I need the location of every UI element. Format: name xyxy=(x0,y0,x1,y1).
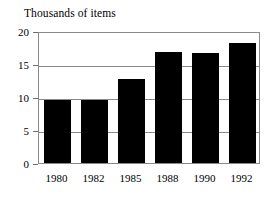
bar xyxy=(192,53,219,163)
bar xyxy=(81,100,108,163)
y-axis-tick-label: 10 xyxy=(3,93,29,104)
bar xyxy=(44,100,71,163)
x-axis-tick-label: 1980 xyxy=(38,172,75,184)
gridline xyxy=(39,66,259,67)
bar-chart: Thousands of items 20151050 198019821985… xyxy=(0,0,273,198)
x-axis-tick-label: 1988 xyxy=(149,172,186,184)
y-axis-tick-label: 5 xyxy=(3,126,29,137)
x-axis-tick-label: 1990 xyxy=(186,172,223,184)
x-axis-tick-label: 1985 xyxy=(112,172,149,184)
gridline xyxy=(39,132,259,133)
y-axis-tick-label: 0 xyxy=(3,159,29,170)
chart-title: Thousands of items xyxy=(24,6,116,20)
gridline xyxy=(39,99,259,100)
bar xyxy=(229,43,256,163)
bar xyxy=(118,79,145,163)
y-axis-tick-label: 15 xyxy=(3,60,29,71)
plot-area xyxy=(38,32,260,164)
x-axis-tick-label: 1992 xyxy=(223,172,260,184)
y-axis-tick-label: 20 xyxy=(3,27,29,38)
bar xyxy=(155,52,182,163)
x-axis-tick-label: 1982 xyxy=(75,172,112,184)
